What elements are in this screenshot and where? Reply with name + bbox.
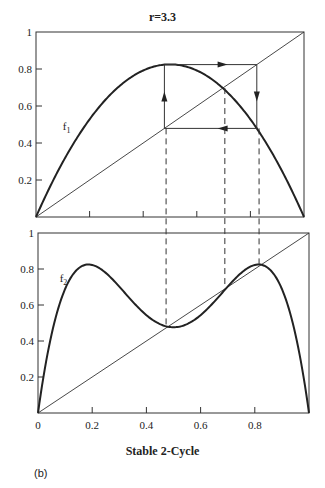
arrow-right-icon: [218, 62, 228, 68]
x-tick-label: 0.8: [248, 419, 262, 431]
y-tick-label: 1: [29, 227, 35, 239]
arrow-up-icon: [161, 91, 167, 101]
chart-svg: 0.20.40.60.81f1 0.20.40.60.8100.20.40.60…: [0, 0, 325, 488]
y-tick-label: 0.6: [18, 100, 32, 112]
y-tick-label: 0.8: [20, 263, 34, 275]
y-tick-label: 0.2: [18, 174, 32, 186]
x-axis-label: Stable 2-Cycle: [0, 444, 325, 459]
bottom-plot-f2: 0.20.40.60.8100.20.40.60.8f2: [20, 227, 309, 431]
curve-f2: [38, 265, 309, 414]
x-tick-label: 0: [35, 419, 41, 431]
panel-label: (b): [34, 467, 47, 479]
top-plot-f1: 0.20.40.60.81f1: [18, 26, 304, 217]
curve-label: f2: [60, 272, 68, 287]
x-tick-label: 0.2: [85, 419, 99, 431]
y-tick-label: 1: [27, 26, 33, 38]
y-tick-label: 0.8: [18, 63, 32, 75]
identity-line: [38, 233, 309, 413]
curve-label: f1: [63, 120, 71, 135]
arrow-down-icon: [254, 91, 260, 101]
dashed-connector-lines: [166, 88, 259, 327]
curve-f1: [36, 64, 304, 217]
y-tick-label: 0.4: [20, 335, 34, 347]
arrow-left-icon: [218, 125, 228, 131]
x-tick-label: 0.4: [140, 419, 154, 431]
y-tick-label: 0.2: [20, 371, 34, 383]
y-tick-label: 0.6: [20, 299, 34, 311]
x-tick-label: 0.6: [194, 419, 208, 431]
identity-line: [36, 32, 304, 217]
y-tick-label: 0.4: [18, 137, 32, 149]
